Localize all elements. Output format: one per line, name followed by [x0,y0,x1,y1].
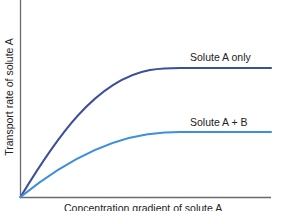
series-label-solute-a-plus-b: Solute A + B [190,116,248,128]
x-axis-label: Concentration gradient of solute A [64,202,222,211]
y-axis-label: Transport rate of solute A [3,38,15,156]
transport-rate-chart [0,0,282,211]
series-label-solute-a-only: Solute A only [190,51,251,63]
